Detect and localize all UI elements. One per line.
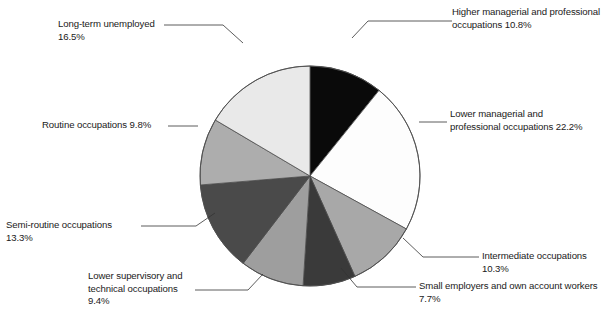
leader-line-long-term-unemployed [164, 25, 243, 43]
pie-chart-figure: Higher managerial and professional occup… [0, 0, 607, 309]
leader-line-higher-managerial [352, 21, 452, 38]
callout-lower-supervisory: Lower supervisory and technical occupati… [88, 270, 198, 308]
callout-intermediate: Intermediate occupations 10.3% [482, 250, 607, 275]
callout-small-employers: Small employers and own account workers … [419, 280, 607, 305]
callout-long-term-unemployed: Long-term unemployed 16.5% [58, 18, 164, 43]
leader-line-semi-routine [141, 213, 215, 226]
callout-higher-managerial: Higher managerial and professional occup… [452, 6, 604, 31]
callout-lower-managerial: Lower managerial and professional occupa… [450, 108, 607, 133]
pie-slices [200, 66, 420, 286]
callout-semi-routine: Semi-routine occupations 13.3% [6, 219, 138, 244]
callout-routine: Routine occupations 9.8% [42, 119, 166, 132]
leader-line-lower-supervisory [195, 274, 263, 290]
leader-line-intermediate [403, 238, 479, 257]
